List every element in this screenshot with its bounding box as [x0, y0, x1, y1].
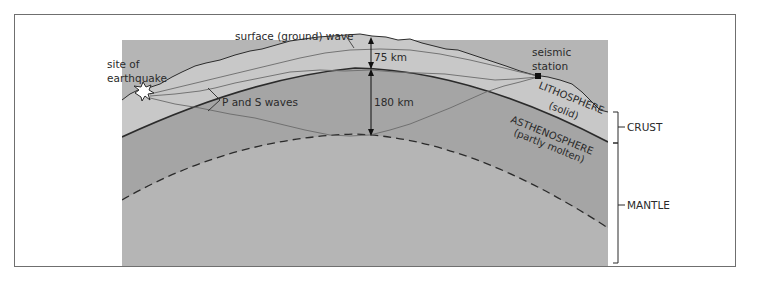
earth-cross-section-diagram: surface (ground) wave site of earthquake… — [0, 0, 763, 290]
seismic-station-label-line1: seismic — [532, 46, 571, 58]
lithosphere-thickness-label: 75 km — [374, 51, 407, 63]
crust-label: CRUST — [627, 121, 663, 133]
surface-wave-label: surface (ground) wave — [235, 30, 354, 42]
site-of-earthquake-label-line1: site of — [107, 58, 140, 70]
seismic-station-icon — [535, 73, 541, 79]
asthenosphere-depth-label: 180 km — [374, 96, 414, 108]
p-and-s-waves-label: P and S waves — [222, 96, 298, 108]
site-of-earthquake-label-line2: earthquake — [107, 72, 167, 84]
seismic-station-label-line2: station — [532, 60, 568, 72]
mantle-bracket — [613, 143, 625, 263]
crust-bracket — [613, 112, 625, 143]
mantle-label: MANTLE — [627, 199, 670, 211]
